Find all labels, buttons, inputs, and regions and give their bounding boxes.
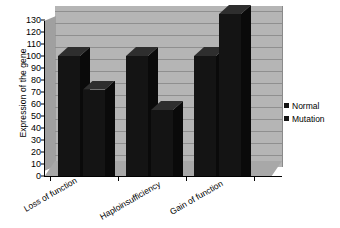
y-axis-tick-label: 80	[31, 76, 41, 85]
legend-swatch-icon	[284, 116, 289, 121]
x-axis-tick-mark	[254, 177, 255, 181]
y-axis-tick-label: 50	[31, 112, 41, 121]
x-axis-label: Gain of function	[168, 178, 225, 216]
y-axis-tick-label: 20	[31, 148, 41, 157]
bar-normal	[58, 56, 80, 176]
bar-mutation	[83, 90, 105, 176]
bar-side-face	[173, 101, 184, 176]
y-axis-tick-label: 110	[27, 40, 41, 49]
y-axis-tick-label: 70	[31, 88, 41, 97]
y-axis-tick-label: 10	[31, 160, 41, 169]
y-axis-tick-label: 120	[26, 28, 41, 37]
bar-side-face	[105, 81, 116, 176]
bar-mutation	[219, 14, 241, 176]
y-axis-tick-label: 130	[26, 16, 41, 25]
bar-normal	[126, 56, 148, 176]
legend-item-mutation: Mutation	[284, 112, 325, 125]
y-axis-tick-label: 100	[26, 52, 41, 61]
legend-item-normal: Normal	[284, 99, 325, 112]
x-axis-tick-mark	[50, 177, 51, 181]
plot-area	[44, 6, 282, 182]
x-axis-tick-mark	[118, 177, 119, 181]
bar-normal	[194, 56, 216, 176]
chart-legend: Normal Mutation	[284, 99, 325, 125]
y-axis-tick-label: 60	[31, 100, 41, 109]
legend-swatch-icon	[284, 103, 289, 108]
y-axis-tick-label: 90	[31, 64, 41, 73]
legend-label: Mutation	[292, 114, 325, 124]
chart-side-wall	[44, 16, 56, 177]
x-axis-tick-mark	[186, 177, 187, 181]
bar-mutation	[151, 110, 173, 176]
bar-chart: Expression of the gene 13012011010090807…	[0, 0, 340, 228]
bar-side-face	[241, 5, 252, 176]
legend-label: Normal	[292, 101, 319, 111]
y-axis-tick-label: 40	[31, 124, 41, 133]
x-axis-line	[44, 176, 282, 177]
y-axis-tick-label: 30	[31, 136, 41, 145]
y-axis-line	[44, 21, 45, 177]
x-axis-label: Haploinsufficiency	[98, 179, 162, 222]
